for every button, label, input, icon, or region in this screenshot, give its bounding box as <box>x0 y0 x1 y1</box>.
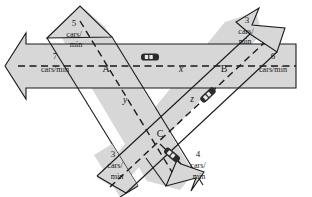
node-label-a: A <box>102 63 110 74</box>
flow-value-in-top-left: 5 <box>72 18 77 28</box>
flow-unit2-out-bottom-right: min <box>193 172 206 181</box>
node-label-c: C <box>157 128 164 139</box>
flow-variable-x: x <box>178 64 184 74</box>
flow-unit1-out-bottom-right: cars/ <box>190 161 206 170</box>
flow-variable-y: y <box>122 95 128 105</box>
car-horizontal-icon <box>141 53 159 60</box>
diagram-canvas: 5 cars/ min 3 cars/ min 7 cars/min 6 car… <box>0 0 312 197</box>
flow-value-out-left: 7 <box>53 51 58 61</box>
flow-variable-z: z <box>189 94 194 104</box>
flow-unit-out-left: cars/min <box>41 65 69 74</box>
flow-unit-in-right: cars/min <box>259 65 287 74</box>
flow-value-in-right: 6 <box>271 51 276 61</box>
flow-value-in-bottom-left: 3 <box>111 149 116 159</box>
flow-value-out-bottom-right: 4 <box>196 149 201 159</box>
flow-label-out-bottom-right: 4 cars/ min <box>190 149 206 181</box>
flow-value-out-top-right: 3 <box>245 15 250 25</box>
node-label-b: B <box>221 63 228 74</box>
flow-unit1-in-bottom-left: cars/ <box>107 161 123 170</box>
flow-unit1-in-top-left: cars/ <box>66 30 82 39</box>
flow-unit2-in-top-left: min <box>70 40 83 49</box>
flow-unit2-in-bottom-left: min <box>111 172 124 181</box>
traffic-flow-diagram: 5 cars/ min 3 cars/ min 7 cars/min 6 car… <box>0 0 312 197</box>
flow-unit1-out-top-right: cars/ <box>238 27 254 36</box>
flow-unit2-out-top-right: min <box>239 37 252 46</box>
